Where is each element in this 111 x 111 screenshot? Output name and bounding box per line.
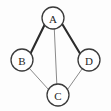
node-c-label: C [54,90,61,102]
node-a[interactable]: A [42,7,64,29]
edge-b-c[interactable] [30,69,49,90]
node-a-label: A [49,13,57,25]
edge-c-d[interactable] [68,69,83,90]
node-b[interactable]: B [11,49,33,71]
edge-layer [30,25,83,90]
edge-a-b[interactable] [31,25,45,54]
node-c[interactable]: C [47,84,69,106]
edge-a-d[interactable] [63,25,81,54]
node-d-label: D [85,55,93,67]
graph-canvas: A B C D [0,0,111,111]
node-d[interactable]: D [78,49,100,71]
node-b-label: B [18,55,25,67]
edge-a-c[interactable] [54,29,57,84]
graph-figure: A B C D [0,0,111,111]
